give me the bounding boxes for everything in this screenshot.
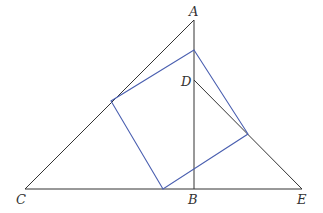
- label-c: C: [16, 192, 26, 207]
- label-a: A: [188, 4, 198, 19]
- segment-ac: [25, 20, 194, 189]
- label-d: D: [180, 74, 192, 89]
- label-b: B: [187, 192, 198, 207]
- label-e: E: [296, 192, 307, 207]
- geometry-diagram: A B C D E: [0, 0, 323, 213]
- inscribed-square: [111, 50, 248, 189]
